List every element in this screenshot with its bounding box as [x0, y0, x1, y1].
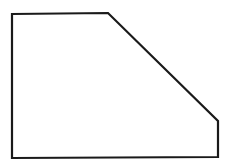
diagram-canvas [0, 0, 229, 164]
